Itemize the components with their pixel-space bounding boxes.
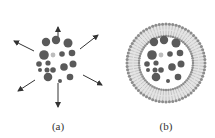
particle	[60, 63, 68, 71]
particle	[64, 39, 73, 48]
arrow-icon	[14, 41, 34, 51]
particle	[147, 50, 157, 60]
particle	[158, 67, 164, 73]
particle	[175, 74, 182, 81]
particle	[42, 38, 50, 46]
particle	[38, 68, 42, 72]
particle	[67, 74, 74, 81]
particle	[153, 60, 158, 65]
particle	[168, 63, 176, 71]
particle	[160, 36, 168, 44]
lipid-bilayer-membrane	[126, 23, 207, 104]
particle	[146, 68, 150, 72]
particle	[50, 67, 56, 73]
particle	[45, 60, 50, 65]
particle	[52, 36, 60, 44]
particle	[166, 79, 170, 83]
particle	[178, 61, 185, 68]
panel-b-liposome	[126, 23, 207, 104]
particle	[152, 73, 161, 82]
particle	[59, 51, 65, 57]
particle	[36, 61, 42, 67]
particle	[51, 53, 56, 58]
particle	[58, 79, 62, 83]
diagram-canvas	[0, 0, 215, 138]
particle	[70, 61, 77, 68]
particle	[144, 61, 150, 67]
particle	[167, 51, 173, 57]
panel-a-label: (a)	[52, 120, 64, 132]
encapsulated-particle-cluster	[144, 36, 184, 83]
particle-cluster	[36, 36, 76, 83]
panel-b-label: (b)	[160, 120, 173, 132]
particle	[153, 68, 158, 73]
particle	[177, 50, 184, 57]
particle	[69, 50, 76, 57]
arrow-icon	[83, 75, 102, 85]
particle	[44, 73, 53, 82]
particle	[39, 50, 49, 60]
particle	[150, 38, 158, 46]
panel-a-free-particles	[14, 27, 102, 107]
particle	[159, 53, 164, 58]
arrow-icon	[80, 35, 98, 49]
particle	[45, 68, 50, 73]
arrow-icon	[18, 80, 35, 91]
particle	[172, 39, 181, 48]
